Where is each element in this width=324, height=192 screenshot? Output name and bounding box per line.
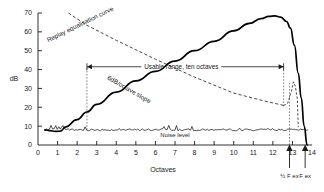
noise-level-trace <box>45 125 308 130</box>
x-tick-label: 2 <box>75 149 79 156</box>
usable-range-arrowhead-left <box>87 64 92 69</box>
y-tick-label: 30 <box>24 85 32 92</box>
x-tick-label: 7 <box>173 149 177 156</box>
y-tick-label: 20 <box>24 104 32 111</box>
y-tick-label: 70 <box>24 9 32 16</box>
slope-label: 6dB/octave slope <box>106 74 153 106</box>
y-tick-label: 10 <box>24 123 32 130</box>
x-tick-label: 3 <box>95 149 99 156</box>
x-tick-label: 8 <box>193 149 197 156</box>
x-tick-label: 1 <box>56 149 60 156</box>
x-tick-label: 9 <box>212 149 216 156</box>
half-fex-label: ½ F ex <box>280 173 298 179</box>
x-tick-label: 0 <box>36 149 40 156</box>
x-tick-label: 12 <box>269 149 277 156</box>
noise-level-label: Noise level <box>160 132 189 138</box>
x-tick-label: 5 <box>134 149 138 156</box>
replay-resonance-bump <box>284 82 299 127</box>
replay-equalisation-curve <box>68 13 283 105</box>
x-tick-label: 10 <box>230 149 238 156</box>
x-tick-label: 14 <box>308 149 316 156</box>
usable-range-label: Usable range, ten octaves <box>144 63 218 71</box>
x-tick-label: 11 <box>250 149 257 156</box>
chart-canvas: 010203040506070dB01234567891011121314Oct… <box>0 0 324 192</box>
fex-label: F ex <box>299 173 311 179</box>
x-tick-label: 4 <box>114 149 118 156</box>
y-tick-label: 50 <box>24 47 32 54</box>
y-tick-label: 60 <box>24 28 32 35</box>
replay-eq-label: Replay equalisation curve <box>46 5 116 44</box>
x-tick-label: 6 <box>153 149 157 156</box>
half-fex-arrow-head <box>286 145 292 152</box>
y-tick-label: 0 <box>28 141 32 148</box>
y-tick-label: 40 <box>24 66 32 73</box>
record-replay-response-curve <box>45 16 307 145</box>
x-axis-title: Octaves <box>150 166 176 173</box>
usable-range-arrowhead-right <box>279 64 284 69</box>
y-axis-title: dB <box>10 75 19 82</box>
frequency-response-chart: 010203040506070dB01234567891011121314Oct… <box>0 0 324 192</box>
